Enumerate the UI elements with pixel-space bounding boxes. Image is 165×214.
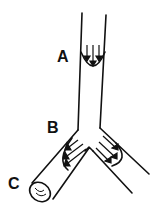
label-a: A (57, 48, 69, 66)
left-branch-inner-wall (53, 148, 89, 199)
main-tube-right-wall (100, 15, 106, 128)
label-c: C (8, 175, 20, 193)
label-b: B (47, 119, 59, 137)
main-tube-left-wall (78, 13, 82, 130)
branching-vessel-diagram (0, 0, 165, 214)
